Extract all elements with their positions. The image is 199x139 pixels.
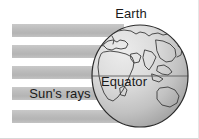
diagram-figure: Earth Equator Sun's rays — [0, 0, 199, 139]
equator-label: Equator — [101, 74, 148, 89]
sun-ray-bar-1 — [12, 24, 124, 37]
sun-rays-label: Sun's rays — [29, 86, 91, 101]
earth-label: Earth — [115, 6, 147, 21]
diagram-canvas: Earth Equator Sun's rays — [0, 0, 199, 139]
